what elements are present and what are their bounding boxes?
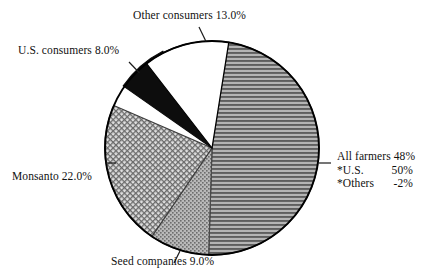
- pie-chart: Other consumers 13.0% U.S. consumers 8.0…: [0, 0, 430, 280]
- pie-label-us-consumers: U.S. consumers 8.0%: [18, 44, 119, 57]
- pie-label-all-farmers-note-us: *U.S.50%: [337, 164, 415, 178]
- note-others-name: *Others: [337, 177, 383, 191]
- pie-chart-svg: [0, 0, 430, 280]
- note-us-value: 50%: [383, 164, 413, 178]
- note-us-name: *U.S.: [337, 164, 383, 178]
- pie-label-all-farmers-note-others: *Others-2%: [337, 177, 415, 191]
- leader-line-other-consumers: [199, 27, 206, 42]
- pie-slice-all-farmers[interactable]: [209, 42, 319, 255]
- pie-label-other-consumers: Other consumers 13.0%: [133, 9, 246, 22]
- pie-label-seed-companies: Seed companies 9.0%: [111, 255, 214, 268]
- pie-label-all-farmers: All farmers 48% *U.S.50% *Others-2%: [337, 150, 415, 191]
- pie-label-monsanto: Monsanto 22.0%: [12, 170, 92, 183]
- leader-line-us-consumers: [129, 62, 140, 73]
- pie-label-all-farmers-main: All farmers 48%: [337, 150, 415, 164]
- note-others-value: -2%: [383, 177, 413, 191]
